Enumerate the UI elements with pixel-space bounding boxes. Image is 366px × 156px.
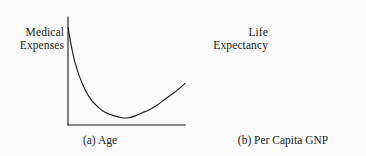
panel-a-curve [68,27,185,118]
panel-b-y-axis-label-line-1: Life [208,26,268,39]
chart-panel-b: Life Expectancy (b) Per Capita GNP [200,0,366,156]
figure-container: Medical Expenses (a) Age Life Expectancy… [0,0,366,156]
chart-panel-a: Medical Expenses (a) Age [0,0,200,156]
panel-a-y-axis-label-line-1: Medical [4,26,64,39]
panel-a-y-axis-label: Medical Expenses [4,26,64,51]
panel-b-caption: (b) Per Capita GNP [200,133,366,147]
panel-a-caption: (a) Age [0,133,200,147]
panel-a-y-axis-label-line-2: Expenses [4,39,64,52]
panel-b-y-axis-label: Life Expectancy [208,26,268,51]
panel-b-y-axis-label-line-2: Expectancy [208,39,268,52]
